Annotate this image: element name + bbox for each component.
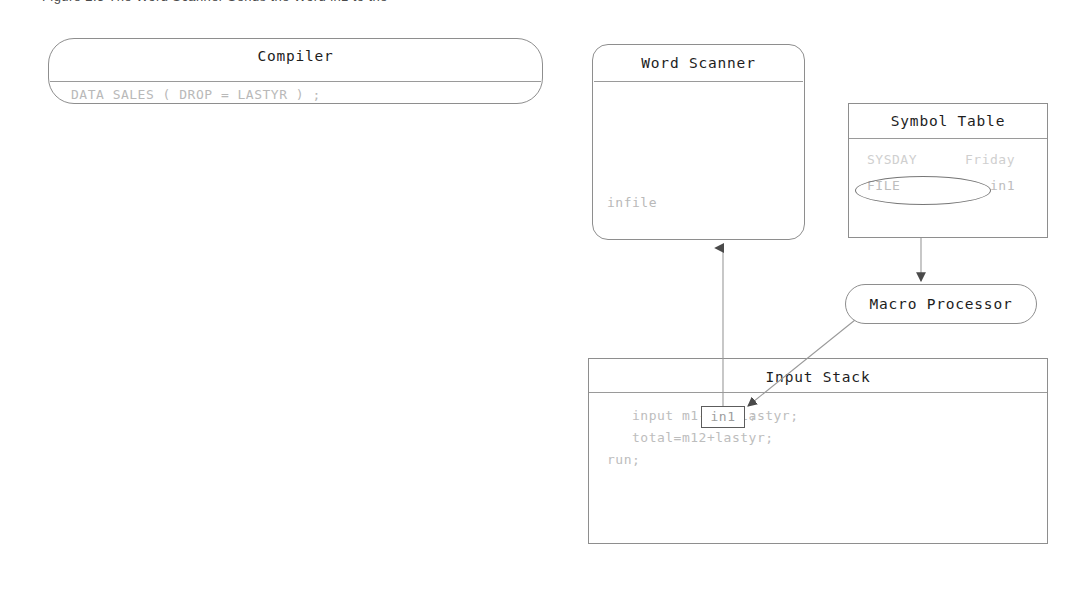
symbol-table-row: SYSDAY Friday: [867, 152, 1037, 167]
input-stack-divider: [589, 392, 1047, 393]
symbol-table-node: Symbol Table SYSDAY Friday FILE in1: [848, 103, 1048, 238]
symbol-table-title: Symbol Table: [849, 113, 1047, 129]
word-scanner-title: Word Scanner: [593, 55, 804, 71]
input-stack-token-suffix: ;: [749, 407, 757, 422]
input-stack-node: Input Stack input m1-m12 lastyr; total=m…: [588, 358, 1048, 544]
macro-processor-node: Macro Processor: [845, 284, 1037, 324]
word-scanner-divider: [594, 81, 803, 82]
compiler-title: Compiler: [49, 48, 542, 64]
compiler-node: Compiler DATA SALES ( DROP = LASTYR ) ;: [48, 38, 543, 104]
symbol-table-row: FILE in1: [867, 178, 1037, 193]
symbol-table-key: SYSDAY: [867, 152, 917, 167]
compiler-code: DATA SALES ( DROP = LASTYR ) ;: [71, 87, 321, 102]
figure-canvas: Figure 2.5 The Word Scanner Sends the Wo…: [0, 0, 1088, 611]
word-scanner-node: Word Scanner infile: [592, 44, 805, 240]
compiler-divider: [50, 81, 541, 82]
input-stack-code-line: run;: [607, 452, 640, 467]
symbol-table-value: in1: [990, 178, 1037, 193]
symbol-table-value: Friday: [965, 152, 1037, 167]
symbol-table-divider: [849, 138, 1047, 139]
macro-processor-title: Macro Processor: [846, 296, 1036, 312]
input-stack-title: Input Stack: [589, 369, 1047, 385]
word-scanner-code: infile: [607, 195, 657, 210]
input-stack-highlighted-token: in1: [701, 406, 745, 428]
symbol-table-key: FILE: [867, 178, 900, 193]
input-stack-code-line: total=m12+lastyr;: [607, 430, 774, 445]
figure-caption: Figure 2.5 The Word Scanner Sends the Wo…: [42, 0, 602, 5]
